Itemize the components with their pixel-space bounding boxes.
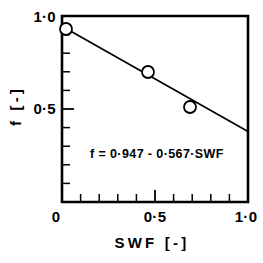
x-tick-label-mid: 0·5	[144, 208, 167, 225]
y-tick-label-max: 1·0	[33, 8, 56, 25]
y-axis-ticks	[62, 35, 74, 184]
y-tick-label-mid: 0·5	[33, 100, 56, 117]
data-point	[60, 23, 72, 35]
chart-figure: 0 0·5 1·0 0·5 1·0 SWF [-] f [-] f = 0·94…	[0, 0, 263, 263]
regression-line	[62, 26, 248, 131]
data-point	[142, 66, 154, 78]
chart-canvas: 0 0·5 1·0 0·5 1·0 SWF [-] f [-] f = 0·94…	[0, 0, 263, 263]
data-point	[184, 101, 196, 113]
x-tick-label-0: 0	[52, 208, 61, 225]
y-axis-title: f [-]	[7, 86, 24, 126]
x-axis-ticks	[81, 190, 230, 202]
x-axis-title: SWF [-]	[115, 234, 190, 251]
x-tick-label-max: 1·0	[235, 208, 258, 225]
regression-equation: f = 0·947 - 0·567·SWF	[90, 147, 224, 161]
plot-frame	[62, 16, 248, 202]
